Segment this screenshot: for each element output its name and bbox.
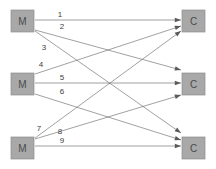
cell-node-c1: C [182, 10, 205, 32]
edge-label-5: 5 [60, 73, 65, 82]
cell-node-label: C [190, 143, 197, 154]
machine-node-label: M [18, 143, 26, 154]
edge-label-1: 1 [58, 10, 63, 19]
cell-node-label: C [190, 79, 197, 90]
machine-node-m1: M [11, 10, 34, 32]
machine-node-label: M [18, 16, 26, 27]
arrowhead-e5 [175, 81, 181, 86]
arrowhead-e9 [175, 144, 181, 149]
edge-label-8: 8 [58, 127, 63, 136]
edge-label-9: 9 [60, 136, 65, 145]
bipartite-diagram: MMM CCC 123456789 [0, 0, 216, 169]
edge-e3 [35, 31, 181, 133]
edge-label-3: 3 [42, 43, 47, 52]
edge-label-2: 2 [60, 22, 65, 31]
machine-node-m3: M [11, 137, 34, 159]
arrowhead-e6 [174, 136, 181, 140]
cell-node-label: C [190, 16, 197, 27]
machine-node-label: M [18, 79, 26, 90]
arrowhead-e7 [175, 31, 181, 37]
edge-label-7: 7 [37, 124, 42, 133]
graph-canvas: MMM CCC 123456789 [0, 0, 216, 169]
machine-nodes-layer: MMM [11, 10, 34, 159]
arrowhead-e4 [174, 26, 181, 30]
arrowhead-e8 [174, 95, 181, 99]
arrowhead-e2 [174, 66, 181, 70]
arrowhead-e3 [175, 128, 181, 133]
edge-label-6: 6 [60, 87, 65, 96]
edge-e4 [35, 26, 181, 74]
cell-node-c3: C [182, 137, 205, 159]
cell-nodes-layer: CCC [182, 10, 205, 159]
edge-label-4: 4 [39, 60, 44, 69]
arrowhead-e1 [175, 18, 181, 23]
machine-node-m2: M [11, 73, 34, 95]
edge-labels-layer: 123456789 [37, 10, 65, 145]
edge-e7 [35, 31, 181, 138]
cell-node-c2: C [182, 73, 205, 95]
